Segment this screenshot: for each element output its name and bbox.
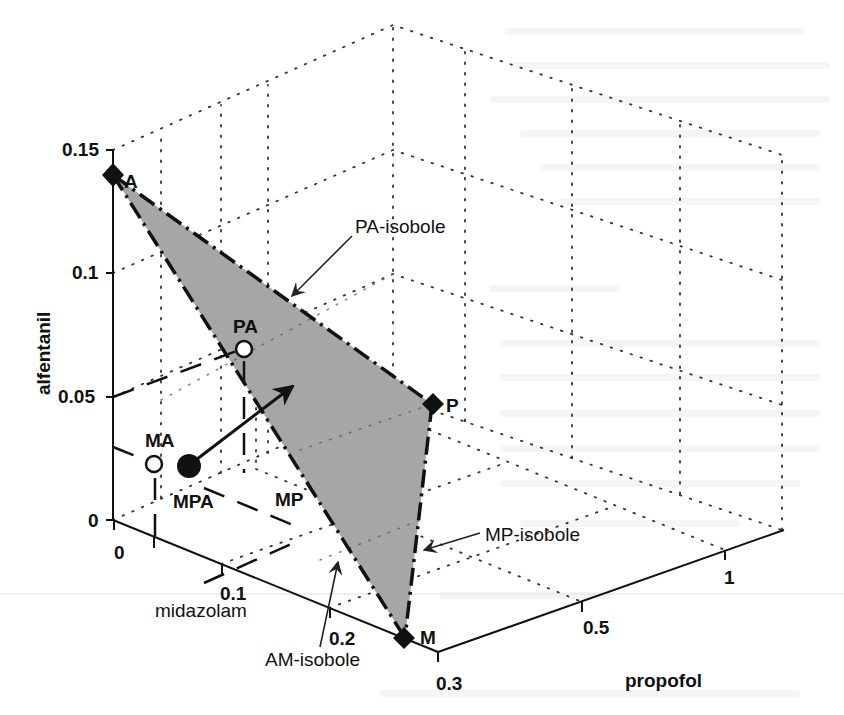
x-tick-0.3: 0.3 [436,673,462,694]
isobologram-3d-chart: 0.15 0.1 0.05 0 0 0.1 0.2 0.3 0.5 1 alfe… [0,0,844,715]
pa-isobole-label: PA-isobole [355,216,445,237]
label-a: A [124,171,138,192]
z-tick-0.1: 0.1 [72,262,99,283]
z-tick-0.05: 0.05 [58,386,95,407]
mp-isobole-label: MP-isobole [485,524,580,545]
z-axis-label: alfentanil [33,312,54,395]
point-m-diamond [393,627,415,649]
z-tick-0: 0 [88,510,99,531]
label-m: M [420,627,436,648]
x-tick-0.2: 0.2 [329,628,355,649]
z-tick-0.15: 0.15 [62,139,99,160]
am-isobole-label: AM-isobole [265,649,360,670]
y-tick-0.5: 0.5 [583,617,610,638]
y-tick-1: 1 [724,567,735,588]
additivity-plane [113,175,432,638]
x-axis-label: midazolam [155,600,247,621]
label-p: P [446,395,459,416]
y-axis-label: propofol [625,670,702,691]
x-tick-0: 0 [114,542,125,563]
point-pa-circle [236,341,252,357]
label-ma: MA [145,430,175,451]
label-pa: PA [233,316,258,337]
label-mp: MP [275,489,304,510]
pa-isobole-pointer [292,236,352,296]
point-mpa-dot [177,454,201,478]
propofol-axis [438,530,784,652]
label-mpa: MPA [173,491,214,512]
point-ma-circle [146,456,162,472]
